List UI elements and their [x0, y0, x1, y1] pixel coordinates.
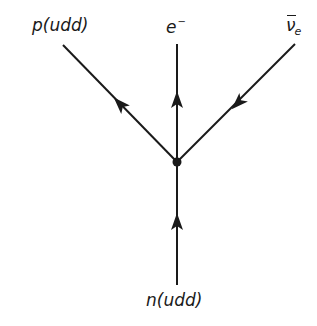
antineutrino-symbol: ν [286, 17, 296, 34]
electron-charge: − [177, 16, 185, 27]
feynman-diagram [0, 0, 317, 326]
antineutrino-label: νe [286, 17, 301, 37]
neutron-label: n(udd) [146, 292, 202, 309]
antineutrino-arrow-icon [227, 93, 248, 114]
nu-glyph: ν [286, 15, 296, 35]
proton-label: p(udd) [32, 17, 88, 34]
electron-symbol: e [166, 17, 176, 37]
electron-label: e− [166, 17, 186, 36]
interaction-vertex [173, 158, 182, 167]
antiparticle-overbar [287, 15, 296, 16]
